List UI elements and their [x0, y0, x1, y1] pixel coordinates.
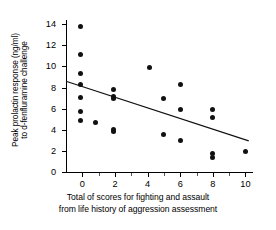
- y-tick-label: 8: [51, 83, 56, 92]
- y-axis-label-line-2: to d-fenfluramine challenge: [20, 41, 29, 138]
- y-tick-label: 6: [51, 104, 56, 113]
- x-tick-minor: [131, 173, 132, 176]
- x-tick-minor: [197, 173, 198, 176]
- x-tick-label: 6: [178, 179, 183, 189]
- y-axis-label: Peak prolactin response (ng/ml) to d-fen…: [0, 0, 42, 180]
- x-tick-label: 10: [240, 179, 250, 189]
- x-tick-label: 4: [145, 179, 150, 189]
- x-tick-minor: [229, 173, 230, 176]
- x-axis-label: Total of scores for fighting and assault…: [0, 192, 276, 215]
- y-tick-label: 10: [46, 62, 56, 71]
- x-tick-label: 8: [210, 179, 215, 189]
- scatter-plot-figure: Peak prolactin response (ng/ml) to d-fen…: [0, 0, 276, 230]
- x-tick: [245, 173, 246, 177]
- x-tick: [148, 173, 149, 177]
- x-tick: [115, 173, 116, 177]
- x-tick-label: 0: [80, 179, 85, 189]
- x-axis-label-line-1: Total of scores for fighting and assault: [0, 192, 276, 204]
- plot-area: 02468101214 0246810: [66, 20, 252, 172]
- x-axis-line: [66, 172, 253, 173]
- y-tick-label: 0: [51, 168, 56, 177]
- x-tick: [180, 173, 181, 177]
- x-tick: [82, 173, 83, 177]
- y-tick-label: 2: [51, 146, 56, 155]
- x-tick-minor: [99, 173, 100, 176]
- y-tick-label: 12: [46, 41, 56, 50]
- regression-line: [66, 20, 252, 172]
- y-tick-label: 4: [51, 125, 56, 134]
- y-tick: 0: [62, 172, 66, 173]
- x-axis-label-line-2: from life history of aggression assessme…: [0, 204, 276, 216]
- x-tick-label: 2: [112, 179, 117, 189]
- y-tick-label: 14: [46, 20, 56, 29]
- x-tick: [213, 173, 214, 177]
- x-tick-minor: [164, 173, 165, 176]
